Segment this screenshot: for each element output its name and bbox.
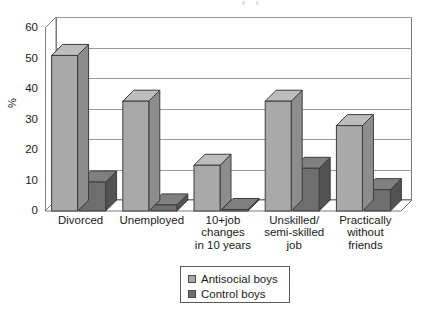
chart-legend: Antisocial boysControl boys bbox=[180, 266, 290, 303]
x-axis-labels: DivorcedUnemployed10+jobchangesin 10 yea… bbox=[45, 214, 423, 262]
legend-label: Antisocial boys bbox=[201, 273, 278, 285]
y-tick-label: 60 bbox=[16, 22, 38, 33]
y-tick-label: 10 bbox=[16, 175, 38, 186]
scan-artifact bbox=[236, 1, 296, 5]
legend-label: Control boys bbox=[201, 288, 266, 300]
plot-area bbox=[45, 17, 413, 211]
bar-chart: % 0102030405060 DivorcedUnemployed10+job… bbox=[0, 0, 435, 322]
y-axis-ticks: 0102030405060 bbox=[12, 0, 38, 322]
y-tick-label: 50 bbox=[16, 53, 38, 64]
x-axis-label-line: without bbox=[324, 226, 407, 238]
y-tick-label: 20 bbox=[16, 144, 38, 155]
y-tick-label: 0 bbox=[16, 205, 38, 216]
x-axis-label-line: Practically bbox=[324, 214, 407, 226]
x-axis-label: Practicallywithoutfriends bbox=[324, 214, 407, 251]
y-tick-label: 30 bbox=[16, 114, 38, 125]
bar-antisocial-boys-0 bbox=[52, 44, 89, 211]
bar-antisocial-boys-3 bbox=[265, 90, 302, 211]
legend-item: Control boys bbox=[188, 286, 289, 301]
legend-item: Antisocial boys bbox=[188, 271, 289, 286]
bar-antisocial-boys-2 bbox=[194, 154, 231, 211]
legend-swatch bbox=[188, 275, 196, 283]
x-axis-label-line: friends bbox=[324, 239, 407, 251]
bar-antisocial-boys-4 bbox=[336, 115, 373, 211]
bars-svg bbox=[45, 17, 413, 212]
bars-container bbox=[45, 17, 413, 212]
legend-swatch bbox=[188, 290, 196, 298]
y-tick-label: 40 bbox=[16, 83, 38, 94]
bar-antisocial-boys-1 bbox=[123, 90, 160, 211]
